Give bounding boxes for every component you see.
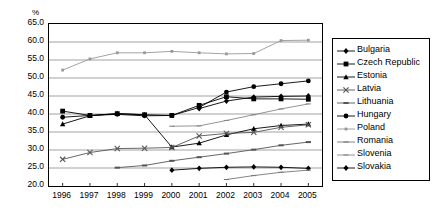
x-tick-label: 2004 xyxy=(265,190,295,200)
legend-item-label: Lithuania xyxy=(356,95,394,107)
y-tick-label: 65.0 xyxy=(14,17,44,27)
x-tick-label: 1996 xyxy=(47,190,77,200)
legend-item-label: Slovakia xyxy=(356,160,391,172)
legend-item-label: Hungary xyxy=(356,108,391,120)
y-tick-label: 40.0 xyxy=(14,107,44,117)
series-lithuania xyxy=(115,141,311,169)
y-axis-unit-label: % xyxy=(32,8,39,17)
legend-item-hungary[interactable]: Hungary xyxy=(336,107,425,120)
triangle-marker-icon xyxy=(336,69,356,81)
plot-area xyxy=(48,23,323,187)
legend-item-label: Estonia xyxy=(356,69,387,81)
legend-item-latvia[interactable]: Latvia xyxy=(336,81,425,94)
x-tick-label: 2000 xyxy=(156,190,186,200)
legend-item-label: Latvia xyxy=(356,82,381,94)
y-tick-label: 20.0 xyxy=(14,179,44,189)
line-marker-icon xyxy=(336,147,356,159)
legend-item-bulgaria[interactable]: Bulgaria xyxy=(336,42,425,55)
series-slovenia xyxy=(169,104,311,126)
cross-marker-icon xyxy=(336,82,356,94)
legend-item-label: Romania xyxy=(356,134,393,146)
y-tick-label: 60.0 xyxy=(14,35,44,45)
y-tick-label: 50.0 xyxy=(14,71,44,81)
y-tick-label: 25.0 xyxy=(14,161,44,171)
x-tick-label: 1998 xyxy=(101,190,131,200)
legend-item-label: Poland xyxy=(356,121,385,133)
y-tick-label: 45.0 xyxy=(14,89,44,99)
x-tick-label: 2005 xyxy=(292,190,322,200)
y-tick-label: 30.0 xyxy=(14,143,44,153)
x-tick-label: 2002 xyxy=(210,190,240,200)
series-estonia xyxy=(60,111,311,149)
legend-item-slovakia[interactable]: Slovakia xyxy=(336,159,425,172)
legend-item-romania[interactable]: Romania xyxy=(336,133,425,146)
series-canvas xyxy=(49,24,322,186)
square-marker-icon xyxy=(336,56,356,68)
diamond-marker-icon xyxy=(336,43,356,55)
chart-root: % 20.025.030.035.040.045.050.055.060.065… xyxy=(0,0,434,218)
legend-item-label: Slovenia xyxy=(356,147,392,159)
legend-item-czech-republic[interactable]: Czech Republic xyxy=(336,55,425,68)
x-tick-label: 2003 xyxy=(238,190,268,200)
legend-item-lithuania[interactable]: Lithuania xyxy=(336,94,425,107)
y-tick-label: 35.0 xyxy=(14,125,44,135)
legend-item-poland[interactable]: Poland xyxy=(336,120,425,133)
legend: BulgariaCzech RepublicEstoniaLatviaLithu… xyxy=(332,38,430,181)
series-latvia xyxy=(60,122,311,162)
x-tick-label: 1997 xyxy=(74,190,104,200)
circle-marker-icon xyxy=(336,108,356,120)
y-tick-label: 55.0 xyxy=(14,53,44,63)
dash-marker-icon xyxy=(336,95,356,107)
legend-item-estonia[interactable]: Estonia xyxy=(336,68,425,81)
series-poland xyxy=(61,39,310,72)
legend-item-slovenia[interactable]: Slovenia xyxy=(336,146,425,159)
legend-item-label: Bulgaria xyxy=(356,43,390,55)
dot-marker-icon xyxy=(336,121,356,133)
x-tick-label: 1999 xyxy=(129,190,159,200)
x-tick-label: 2001 xyxy=(183,190,213,200)
line-marker-icon xyxy=(336,134,356,146)
series-romania xyxy=(224,170,311,179)
diamond-filled-marker-icon xyxy=(336,160,356,172)
legend-item-label: Czech Republic xyxy=(356,56,420,68)
